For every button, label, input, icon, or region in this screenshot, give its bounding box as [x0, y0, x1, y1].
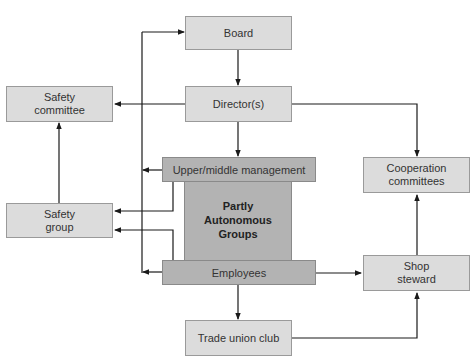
node-board: Board [185, 16, 292, 50]
node-upper-middle-management-label: Upper/middle management [173, 164, 306, 176]
node-safety-group: Safety group [6, 203, 113, 238]
node-board-label: Board [224, 27, 253, 40]
node-partly-autonomous-groups: Partly Autonomous Groups [200, 199, 276, 241]
node-upper-middle-management: Upper/middle management [162, 157, 316, 182]
node-trade-union-club-label: Trade union club [198, 332, 280, 345]
node-partly-autonomous-groups-label: Partly Autonomous Groups [204, 200, 272, 240]
node-cooperation-committees-label: Cooperation committees [378, 162, 455, 188]
node-safety-committee-label: Safety committee [29, 91, 90, 117]
node-employees: Employees [162, 260, 316, 285]
node-directors-label: Director(s) [213, 98, 264, 111]
node-trade-union-club: Trade union club [185, 320, 292, 356]
node-shop-steward: Shop steward [363, 255, 470, 291]
node-cooperation-committees: Cooperation committees [363, 157, 470, 193]
node-directors: Director(s) [185, 86, 292, 122]
node-safety-group-label: Safety group [37, 208, 82, 234]
node-employees-label: Employees [212, 267, 266, 279]
node-shop-steward-label: Shop steward [397, 260, 436, 286]
node-safety-committee: Safety committee [6, 86, 113, 122]
